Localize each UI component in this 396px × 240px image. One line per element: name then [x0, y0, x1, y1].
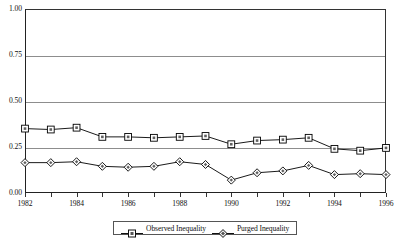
- y-tick-label-025: 0.25: [0, 143, 22, 151]
- square-marker-icon: [121, 224, 143, 233]
- gridline-050: [26, 102, 385, 103]
- x-tick-1985: [102, 193, 103, 197]
- x-tick-1988: [180, 193, 181, 197]
- legend-item-purged: Purged Inequality: [212, 224, 289, 233]
- plot-area: [25, 9, 386, 193]
- y-tick-label-050: 0.50: [0, 97, 22, 105]
- x-tick-1993: [309, 193, 310, 197]
- x-tick-1996: [386, 193, 387, 197]
- chart-legend: Observed Inequality Purged Inequality: [113, 221, 297, 235]
- legend-label-purged: Purged Inequality: [237, 224, 289, 233]
- x-tick-1992: [283, 193, 284, 197]
- y-tick-label-075: 0.75: [0, 51, 22, 59]
- legend-item-observed: Observed Inequality: [121, 224, 206, 233]
- x-tick-label-1984: 1984: [69, 199, 84, 208]
- x-tick-label-1986: 1986: [121, 199, 136, 208]
- x-tick-1995: [360, 193, 361, 197]
- x-tick-label-1982: 1982: [18, 199, 33, 208]
- x-tick-1987: [154, 193, 155, 197]
- x-tick-1994: [334, 193, 335, 197]
- x-tick-1990: [231, 193, 232, 197]
- y-tick-label-100: 1.00: [0, 5, 22, 13]
- x-tick-1986: [128, 193, 129, 197]
- x-tick-1989: [206, 193, 207, 197]
- x-tick-label-1996: 1996: [379, 199, 394, 208]
- x-tick-label-1988: 1988: [172, 199, 187, 208]
- diamond-marker-icon: [212, 224, 234, 233]
- legend-label-observed: Observed Inequality: [146, 224, 206, 233]
- x-tick-1984: [77, 193, 78, 197]
- y-tick-label-000: 0.00: [0, 189, 22, 197]
- x-tick-label-1994: 1994: [327, 199, 342, 208]
- x-tick-label-1992: 1992: [275, 199, 290, 208]
- inequality-line-chart: 1.00 0.75 0.50 0.25 0.00 198219841986198…: [0, 0, 396, 240]
- x-tick-1983: [51, 193, 52, 197]
- gridline-075: [26, 56, 385, 57]
- x-tick-label-1990: 1990: [224, 199, 239, 208]
- x-axis-labels: 19821984198619881990199219941996: [0, 199, 396, 211]
- gridline-025: [26, 148, 385, 149]
- x-tick-1991: [257, 193, 258, 197]
- x-tick-1982: [25, 193, 26, 197]
- x-axis-ticks: [25, 193, 386, 198]
